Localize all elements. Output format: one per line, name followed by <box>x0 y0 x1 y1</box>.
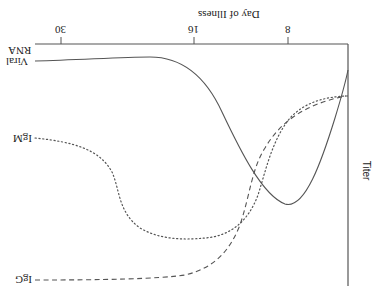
x-axis-title: Day of Illness <box>198 9 260 20</box>
igm-curve <box>35 96 346 239</box>
igg-curve <box>35 96 346 280</box>
series-label-viral-rna-line1: Viral <box>6 56 28 67</box>
plot-canvas <box>0 0 381 293</box>
series-label-igm: IgM <box>13 133 32 144</box>
viral-rna-curve <box>35 57 348 204</box>
figure: Day of Illness 30 16 8 Titer RNA Viral I… <box>0 0 381 293</box>
x-tick-label-16: 16 <box>188 24 199 35</box>
y-axis-title: Titer <box>361 161 372 181</box>
series-label-viral-rna-line2: RNA <box>8 45 31 56</box>
x-tick-label-30: 30 <box>55 24 66 35</box>
series-label-igg: IgG <box>15 274 32 285</box>
x-tick-label-8: 8 <box>285 24 291 35</box>
